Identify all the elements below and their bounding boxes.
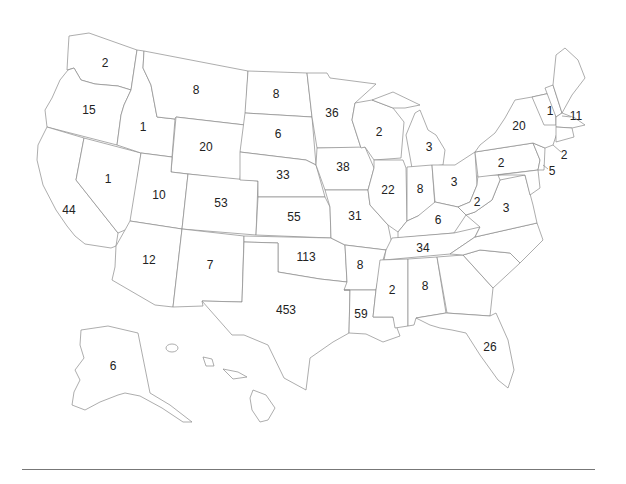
state-label-fl: 26 bbox=[483, 341, 496, 353]
state-ct-ri[interactable] bbox=[556, 127, 574, 142]
state-label-tn: 34 bbox=[416, 242, 429, 254]
state-label-ks: 55 bbox=[287, 211, 300, 223]
hawaii-island bbox=[166, 344, 178, 352]
state-label-ar: 8 bbox=[357, 259, 364, 271]
state-label-wi: 2 bbox=[376, 126, 383, 138]
state-label-sd: 6 bbox=[275, 128, 282, 140]
state-label-ok: 113 bbox=[296, 251, 315, 263]
state-label-az: 12 bbox=[142, 254, 155, 266]
state-label-wy: 20 bbox=[199, 141, 212, 153]
state-label-nm: 7 bbox=[207, 259, 214, 271]
state-label-al: 8 bbox=[422, 280, 429, 292]
hawaii-big bbox=[250, 390, 275, 422]
state-label-ut: 10 bbox=[152, 189, 165, 201]
state-label-tx: 453 bbox=[276, 304, 296, 316]
state-fl[interactable] bbox=[416, 313, 514, 388]
state-label-wa: 2 bbox=[102, 57, 109, 69]
state-label-mt: 8 bbox=[193, 84, 200, 96]
state-label-wv: 2 bbox=[474, 196, 481, 208]
state-label-ky: 6 bbox=[435, 214, 442, 226]
state-label-nd: 8 bbox=[273, 88, 280, 100]
state-label-ct: 2 bbox=[561, 149, 568, 161]
us-map bbox=[0, 0, 626, 484]
state-label-mo: 31 bbox=[348, 210, 361, 222]
state-label-ca: 44 bbox=[62, 204, 75, 216]
state-label-in: 8 bbox=[417, 183, 424, 195]
state-ak[interactable] bbox=[72, 326, 192, 422]
state-label-nv: 1 bbox=[105, 173, 112, 185]
state-label-nj: 5 bbox=[549, 165, 556, 177]
state-label-mi: 3 bbox=[426, 141, 433, 153]
state-label-ak: 6 bbox=[110, 360, 117, 372]
state-label-nh: 1 bbox=[547, 105, 554, 117]
hawaii-oahu bbox=[223, 369, 247, 379]
state-label-ms: 2 bbox=[389, 284, 396, 296]
bottom-rule bbox=[22, 469, 595, 470]
hawaii-maui bbox=[203, 357, 214, 366]
state-label-co: 53 bbox=[214, 197, 227, 209]
state-label-ma: 11 bbox=[570, 110, 582, 122]
state-label-pa: 2 bbox=[498, 157, 505, 169]
state-label-va: 3 bbox=[503, 202, 510, 214]
state-label-oh: 3 bbox=[451, 176, 458, 188]
state-label-ia: 38 bbox=[336, 161, 349, 173]
state-label-il: 22 bbox=[381, 184, 394, 196]
state-label-id: 1 bbox=[140, 121, 147, 133]
state-label-mn: 36 bbox=[325, 107, 338, 119]
state-label-ny: 20 bbox=[512, 120, 525, 132]
state-label-or: 15 bbox=[82, 104, 95, 116]
state-label-la: 59 bbox=[354, 308, 367, 320]
state-label-ne: 33 bbox=[276, 169, 289, 181]
